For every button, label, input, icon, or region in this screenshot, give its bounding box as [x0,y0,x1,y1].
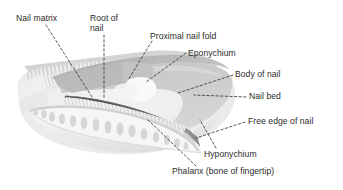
nail-anatomy-figure: Nail matrix Root ofnail Proximal nail fo… [0,0,343,190]
label-body-of-nail: Body of nail [235,70,281,80]
label-phalanx: Phalanx (bone of fingertip) [172,167,274,177]
label-proximal-nail-fold: Proximal nail fold [150,32,216,42]
label-nail-matrix: Nail matrix [16,14,57,24]
nail-anatomy-illustration [0,0,343,190]
label-eponychium: Eponychium [188,49,236,59]
label-root-of-nail: Root ofnail [90,14,118,33]
label-free-edge-of-nail: Free edge of nail [248,117,313,127]
label-root-of-nail-line2: nail [90,23,104,33]
label-nail-bed: Nail bed [249,92,281,102]
label-hyponychium: Hyponychium [204,150,257,160]
label-root-of-nail-line1: Root of [90,13,118,23]
